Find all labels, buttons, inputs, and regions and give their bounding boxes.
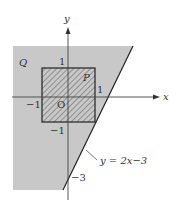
equation-leader <box>86 150 97 160</box>
line-equation-label: y = 2x−3 <box>99 155 147 166</box>
diagram-canvas: y x O 1 1 −1 −1 −3 Q P y = 2x−3 <box>0 0 180 202</box>
y-axis-arrow-icon <box>66 27 71 34</box>
tick-x-pos: 1 <box>97 84 103 95</box>
tick-y-pos: 1 <box>59 56 65 67</box>
tick-x-neg: −1 <box>26 99 41 110</box>
y-axis-label: y <box>63 13 70 24</box>
region-p-label: P <box>82 72 90 83</box>
tick-y-intercept: −3 <box>71 172 86 183</box>
tick-y-neg: −1 <box>50 125 65 136</box>
origin-label: O <box>57 99 65 110</box>
region-q-label: Q <box>19 57 27 68</box>
x-axis-arrow-icon <box>153 95 160 100</box>
x-axis-label: x <box>163 91 169 102</box>
